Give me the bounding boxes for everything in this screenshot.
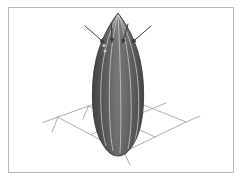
grid-extension-cross-right [153,103,167,109]
bullet-solid [92,13,143,156]
marker-b [104,50,107,53]
grid-extension-right [186,116,200,122]
image-viewport [0,0,243,181]
scene-canvas [0,0,243,181]
arrow-right-outer [132,26,151,43]
marker-a [103,44,106,47]
arrow-left-inner [112,24,113,42]
arrow-left-outer [85,26,104,43]
